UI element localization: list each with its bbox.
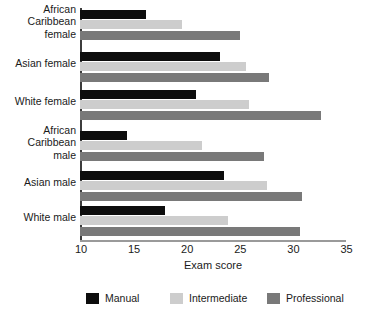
bar-professional-4 bbox=[80, 192, 302, 201]
bar-manual-1 bbox=[80, 52, 220, 61]
x-tick-10: 10 bbox=[75, 243, 87, 255]
legend-label-professional: Professional bbox=[286, 292, 344, 304]
bar-chart: African Caribbean femaleAsian femaleWhit… bbox=[0, 0, 369, 317]
bar-intermediate-2 bbox=[80, 100, 249, 109]
category-label-2: White female bbox=[2, 95, 76, 107]
bar-manual-0 bbox=[80, 10, 146, 19]
x-tick-30: 30 bbox=[287, 243, 299, 255]
bar-manual-4 bbox=[80, 171, 224, 180]
legend-label-manual: Manual bbox=[105, 292, 139, 304]
category-label-0: African Caribbean female bbox=[2, 3, 76, 40]
bar-professional-5 bbox=[80, 227, 300, 236]
x-tick-25: 25 bbox=[234, 243, 246, 255]
bar-intermediate-0 bbox=[80, 20, 182, 29]
bar-intermediate-4 bbox=[80, 181, 267, 190]
bar-professional-1 bbox=[80, 73, 269, 82]
x-tick-20: 20 bbox=[181, 243, 193, 255]
legend-item-intermediate: Intermediate bbox=[170, 292, 247, 304]
category-label-1: Asian female bbox=[2, 57, 76, 69]
bar-intermediate-5 bbox=[80, 216, 228, 225]
category-label-4: Asian male bbox=[2, 176, 76, 188]
bar-intermediate-1 bbox=[80, 62, 246, 71]
bar-professional-0 bbox=[80, 31, 240, 40]
legend-swatch-professional bbox=[267, 293, 280, 304]
x-axis-line bbox=[80, 240, 346, 242]
bar-professional-2 bbox=[80, 111, 321, 120]
plot-area bbox=[80, 8, 346, 240]
bar-manual-3 bbox=[80, 131, 127, 140]
legend-item-manual: Manual bbox=[86, 292, 139, 304]
legend-swatch-intermediate bbox=[170, 293, 183, 304]
bar-manual-5 bbox=[80, 206, 165, 215]
category-label-5: White male bbox=[2, 211, 76, 223]
legend-item-professional: Professional bbox=[267, 292, 344, 304]
legend-swatch-manual bbox=[86, 293, 99, 304]
category-axis-labels: African Caribbean femaleAsian femaleWhit… bbox=[0, 0, 76, 245]
x-tick-15: 15 bbox=[128, 243, 140, 255]
category-label-3: African Caribbean male bbox=[2, 124, 76, 161]
bar-manual-2 bbox=[80, 90, 196, 99]
legend-label-intermediate: Intermediate bbox=[189, 292, 247, 304]
x-axis-title: Exam score bbox=[80, 259, 346, 271]
bar-intermediate-3 bbox=[80, 141, 202, 150]
chart-legend: ManualIntermediateProfessional bbox=[0, 292, 369, 310]
bar-professional-3 bbox=[80, 152, 264, 161]
x-tick-35: 35 bbox=[340, 243, 352, 255]
